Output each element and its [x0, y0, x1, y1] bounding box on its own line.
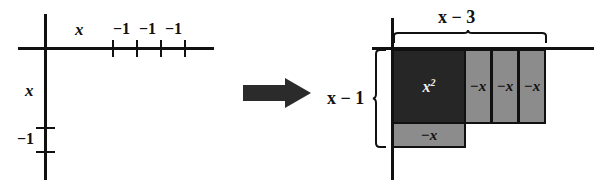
left-x-axis-label-unit-1: −1: [113, 21, 130, 37]
algebra-tile-figure: x −1 −1 −1 x −1 x − 3 x − 1: [0, 0, 607, 185]
transformation-arrow: [243, 78, 311, 108]
tile-neg-x-vertical-1-label: −x: [470, 79, 487, 94]
left-x-tick-1: [112, 40, 114, 57]
tile-neg-x-vertical-3-label: −x: [524, 79, 541, 94]
left-x-tick-2: [136, 40, 138, 57]
left-y-tick-1: [36, 127, 55, 129]
left-x-axis-label-unit-2: −1: [139, 21, 156, 37]
left-x-axis-label-x: x: [75, 21, 84, 38]
left-x-tick-4: [184, 40, 186, 57]
tile-neg-x-vertical-2: −x: [491, 49, 519, 124]
top-brace: [392, 30, 548, 44]
tile-neg-x-horizontal: −x: [392, 122, 466, 148]
left-brace: [373, 49, 387, 148]
tile-x-squared: x2: [392, 49, 466, 124]
left-vertical-axis: [44, 14, 47, 180]
tile-neg-x-vertical-1: −x: [464, 49, 492, 124]
left-brace-label: x − 1: [327, 89, 364, 107]
tile-neg-x-vertical-2-label: −x: [497, 79, 514, 94]
left-y-axis-label-unit-1: −1: [17, 131, 34, 147]
left-y-axis-label-x: x: [25, 82, 34, 99]
tile-neg-x-vertical-3: −x: [518, 49, 546, 124]
left-y-tick-2: [36, 151, 55, 153]
left-x-tick-3: [160, 40, 162, 57]
left-x-axis-label-unit-3: −1: [165, 21, 182, 37]
tile-x-squared-label: x2: [423, 78, 436, 95]
top-brace-label: x − 3: [438, 8, 475, 26]
tile-neg-x-horizontal-label: −x: [421, 128, 438, 143]
